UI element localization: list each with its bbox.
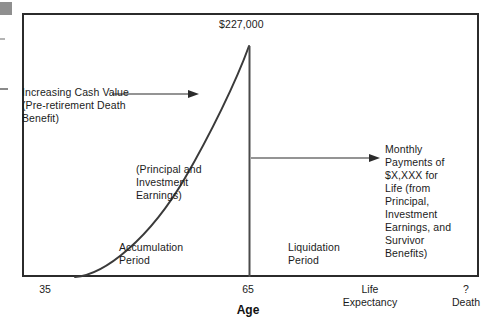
axis-tick-age-65: 65 bbox=[233, 283, 263, 296]
axis-tick-life-expectancy: Life Expectancy bbox=[330, 283, 410, 309]
axis-tick-death: ? Death bbox=[443, 283, 489, 309]
liquidation-period-label: Liquidation Period bbox=[288, 241, 340, 267]
peak-value-label: $227,000 bbox=[219, 18, 264, 31]
monthly-payments-annotation: Monthly Payments of $X,XXX for Life (fro… bbox=[385, 143, 451, 260]
increasing-cash-value-annotation: Increasing Cash Value (Pre-retirement De… bbox=[22, 86, 129, 125]
accumulation-period-label: Accumulation Period bbox=[119, 241, 183, 267]
figure-canvas: $227,000 Increasing Cash Value (Pre-reti… bbox=[0, 0, 494, 331]
monthly-payments-callout-arrow bbox=[251, 154, 380, 162]
x-axis-title: Age bbox=[218, 303, 278, 317]
principal-and-investment-earnings-annotation: (Principal and Investment Earnings) bbox=[136, 163, 202, 202]
axis-tick-age-35: 35 bbox=[30, 283, 60, 296]
